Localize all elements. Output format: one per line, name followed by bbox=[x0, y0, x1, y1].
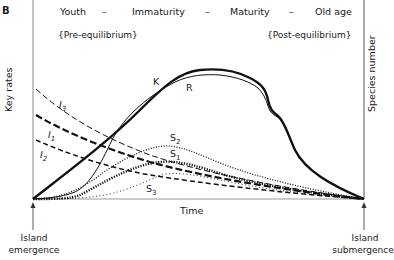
diagram-plot: K R I3 I1 I2 S2 S1 S3 bbox=[0, 0, 394, 260]
label-s1: S1 bbox=[170, 148, 181, 162]
label-r: R bbox=[186, 82, 193, 93]
label-i2: I2 bbox=[40, 149, 48, 163]
label-s3: S3 bbox=[146, 183, 157, 197]
curve-r bbox=[33, 75, 364, 199]
curve-k bbox=[33, 69, 364, 199]
arrow-up-icon bbox=[362, 202, 367, 230]
label-i3: I3 bbox=[59, 99, 66, 113]
label-i1: I1 bbox=[48, 129, 55, 143]
label-s2: S2 bbox=[170, 132, 181, 146]
arrow-up-icon bbox=[31, 202, 36, 230]
curve-s3 bbox=[33, 174, 364, 199]
label-k: K bbox=[153, 76, 160, 87]
